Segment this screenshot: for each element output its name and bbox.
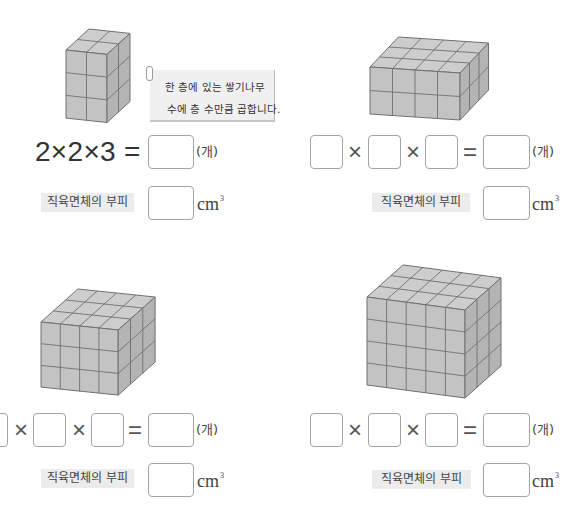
times-sign: × (406, 413, 420, 447)
volume-unit: cm3 (197, 464, 223, 502)
volume-unit: cm3 (532, 464, 558, 502)
volume-unit-base: cm (197, 471, 219, 491)
times-sign: × (348, 135, 362, 169)
volume-unit: cm3 (532, 187, 558, 225)
height-factor-input[interactable] (425, 413, 458, 447)
hint-note-line-2: 수에 층 수만큼 곱합니다. (167, 102, 280, 116)
depth-factor-input[interactable] (368, 135, 401, 169)
width-factor-input[interactable] (310, 135, 343, 169)
times-sign: × (406, 135, 420, 169)
height-factor-input[interactable] (91, 413, 124, 447)
cube-count-answer-input[interactable] (483, 413, 530, 447)
volume-answer-input[interactable] (148, 186, 194, 220)
depth-factor-input[interactable] (33, 413, 66, 447)
depth-factor-input[interactable] (368, 413, 401, 447)
volume-label: 직육면체의 부피 (41, 469, 134, 488)
worksheet-page: 한 층에 있는 쌓기나무 수에 층 수만큼 곱합니다. 2×2×3 = (개) … (0, 0, 571, 518)
volume-unit-exponent: 3 (220, 471, 224, 480)
cube-count-answer-input[interactable] (148, 135, 194, 169)
volume-unit-exponent: 3 (555, 194, 559, 203)
equals-sign: = (463, 413, 477, 447)
volume-unit-exponent: 3 (220, 194, 224, 203)
volume-label: 직육면체의 부피 (372, 193, 470, 212)
count-unit: (개) (196, 135, 218, 169)
multiplication-expression: 2×2×3 = (35, 135, 141, 169)
hint-note-line-1: 한 층에 있는 쌓기나무 (165, 80, 265, 94)
height-factor-input[interactable] (425, 135, 458, 169)
volume-answer-input[interactable] (483, 463, 530, 497)
volume-unit-base: cm (532, 471, 554, 491)
count-unit: (개) (532, 135, 554, 169)
width-factor-input[interactable] (0, 413, 8, 447)
volume-unit-base: cm (197, 194, 219, 214)
equals-sign: = (128, 413, 142, 447)
equals-sign: = (463, 135, 477, 169)
volume-unit: cm3 (197, 187, 223, 225)
volume-unit-base: cm (532, 194, 554, 214)
times-sign: × (348, 413, 362, 447)
count-unit: (개) (196, 413, 218, 447)
times-sign: × (14, 413, 28, 447)
cuboid-figure-4 (367, 265, 501, 398)
cube-count-answer-input[interactable] (148, 413, 194, 447)
cuboid-figure-1 (66, 29, 130, 123)
cuboid-figure-2 (370, 37, 489, 120)
cuboid-figure-3 (41, 289, 155, 395)
volume-label: 직육면체의 부피 (372, 470, 471, 489)
volume-unit-exponent: 3 (555, 471, 559, 480)
width-factor-input[interactable] (310, 413, 343, 447)
volume-answer-input[interactable] (148, 463, 194, 497)
times-sign: × (72, 413, 86, 447)
paperclip-icon (146, 66, 153, 81)
volume-label: 직육면체의 부피 (41, 193, 134, 212)
count-unit: (개) (532, 413, 554, 447)
cube-count-answer-input[interactable] (483, 135, 530, 169)
volume-answer-input[interactable] (483, 186, 530, 220)
